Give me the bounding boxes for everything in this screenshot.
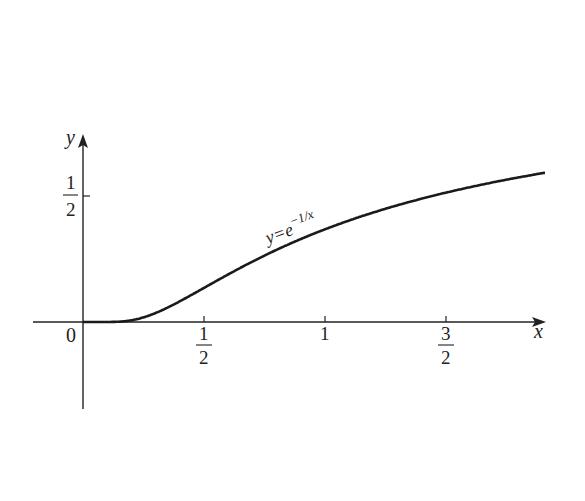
origin-label: 0 [66, 324, 76, 346]
x-tick-label-one: 1 [320, 323, 330, 344]
x-tick-label-half-num: 1 [199, 323, 209, 344]
x-axis-label: x [533, 320, 543, 342]
y-axis-label: y [64, 126, 75, 149]
curve-exp-neg-inv-x [83, 173, 545, 322]
curve-label: y=e−1/x [259, 206, 319, 248]
y-tick-label-num: 1 [66, 172, 76, 193]
x-tick-label-three-halves-den: 2 [441, 347, 451, 368]
x-tick-label-three-halves-num: 3 [441, 323, 451, 344]
x-tick-label-half-den: 2 [199, 347, 209, 368]
plot-canvas: y x 0 1 2 1 2 1 3 2 y=e−1/x [0, 0, 585, 501]
y-tick-label-den: 2 [66, 199, 76, 220]
svg-text:y=e−1/x: y=e−1/x [259, 206, 319, 248]
